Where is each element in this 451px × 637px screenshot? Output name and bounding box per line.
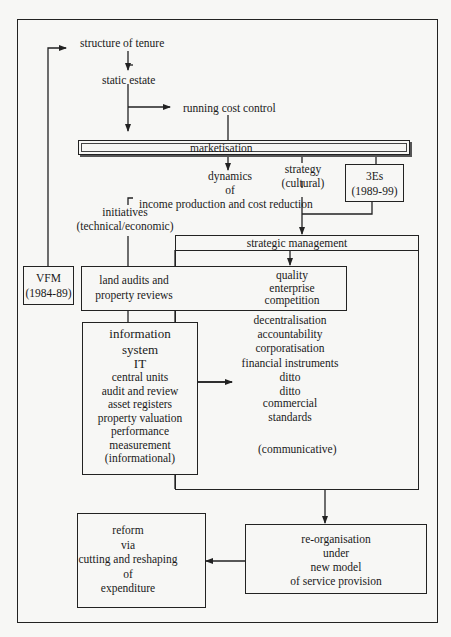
initiatives-line-1: initiatives bbox=[70, 206, 180, 220]
reform-line-3: cutting and reshaping bbox=[78, 552, 178, 567]
comm-line-4: financial instruments bbox=[240, 356, 340, 370]
reform-line-1: reform bbox=[78, 523, 178, 538]
land-audits-text: land audits and property reviews bbox=[88, 273, 180, 303]
comm-line-1: decentralisation bbox=[240, 313, 340, 327]
dynamics-line-2: of bbox=[195, 184, 265, 198]
reform-line-2: via bbox=[78, 538, 178, 553]
info-line-1: information bbox=[83, 326, 197, 342]
info-line-9: measurement bbox=[83, 439, 197, 453]
reform-line-5: expenditure bbox=[78, 581, 178, 596]
comm-line-2: accountability bbox=[240, 327, 340, 341]
information-system-text: information system IT central units audi… bbox=[83, 326, 197, 466]
reorg-line-2: under bbox=[246, 546, 426, 560]
node-structure-of-tenure: structure of tenure bbox=[80, 36, 164, 50]
node-running-cost-control: running cost control bbox=[183, 101, 276, 115]
strategy-line-2: (cultural) bbox=[272, 177, 334, 191]
info-line-4: central units bbox=[83, 371, 197, 385]
reorg-line-1: re-organisation bbox=[246, 532, 426, 546]
node-communicative-list: decentralisation accountability corporat… bbox=[240, 313, 340, 425]
quality-text: quality enterprise competition bbox=[252, 269, 332, 307]
3es-years: (1989-99) bbox=[346, 184, 403, 199]
reorg-line-3: new model bbox=[246, 560, 426, 574]
strategic-management-label: strategic management bbox=[176, 236, 418, 250]
3es-label: 3Es bbox=[346, 169, 403, 184]
vfm-years: (1984-89) bbox=[24, 286, 73, 301]
info-line-2: system bbox=[83, 342, 197, 357]
info-line-10: (informational) bbox=[83, 452, 197, 466]
comm-line-5: ditto bbox=[240, 370, 340, 384]
node-static-estate: static estate bbox=[102, 73, 155, 87]
reform-line-4: of bbox=[78, 567, 178, 582]
node-marketisation: marketisation bbox=[190, 141, 253, 155]
node-reorganisation-box: re-organisation under new model of servi… bbox=[245, 524, 427, 594]
node-strategic-management-header: strategic management bbox=[175, 235, 419, 251]
land-audits-line-2: property reviews bbox=[88, 288, 180, 303]
node-3es-box: 3Es (1989-99) bbox=[345, 164, 404, 202]
dynamics-line-1: dynamics bbox=[195, 170, 265, 184]
info-line-5: audit and review bbox=[83, 385, 197, 399]
quality-line-1: quality bbox=[252, 269, 332, 282]
comm-line-8: standards bbox=[240, 409, 340, 425]
quality-line-2: enterprise bbox=[252, 282, 332, 295]
node-initiatives: initiatives (technical/economic) bbox=[70, 206, 180, 233]
strategy-line-1: strategy bbox=[272, 163, 334, 177]
quality-line-3: competition bbox=[252, 294, 332, 307]
node-communicative-label: (communicative) bbox=[258, 442, 337, 456]
node-vfm-box: VFM (1984-89) bbox=[23, 266, 74, 305]
comm-line-6: ditto bbox=[240, 386, 340, 397]
comm-line-3: corporatisation bbox=[240, 341, 340, 355]
info-line-3: IT bbox=[83, 357, 197, 371]
land-audits-line-1: land audits and bbox=[88, 273, 180, 288]
initiatives-line-2: (technical/economic) bbox=[70, 220, 180, 234]
node-land-audits-box: land audits and property reviews quality… bbox=[81, 266, 347, 311]
node-reform-box: reform via cutting and reshaping of expe… bbox=[77, 513, 206, 608]
node-strategy: strategy (cultural) bbox=[272, 163, 334, 190]
reform-text: reform via cutting and reshaping of expe… bbox=[78, 523, 178, 596]
info-line-6: asset registers bbox=[83, 398, 197, 412]
node-information-system-box: information system IT central units audi… bbox=[82, 322, 198, 475]
info-line-7: property valuation bbox=[83, 412, 197, 426]
vfm-label: VFM bbox=[24, 271, 73, 286]
comm-line-7: commercial bbox=[240, 397, 340, 409]
reorg-line-4: of service provision bbox=[246, 574, 426, 588]
info-line-8: performance bbox=[83, 425, 197, 439]
node-dynamics: dynamics of bbox=[195, 170, 265, 197]
